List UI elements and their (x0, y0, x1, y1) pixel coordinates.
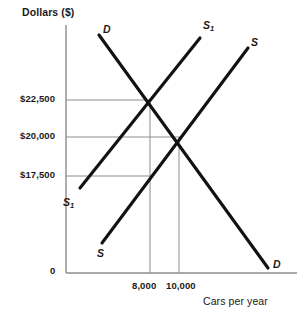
demand-curve (99, 35, 268, 268)
supply1-bottom-subscript: 1 (70, 201, 74, 210)
supply1-bottom-letter: S (63, 196, 70, 208)
x-axis-title: Cars per year (203, 295, 268, 307)
curves (80, 35, 268, 268)
supply1-curve-label-bottom: S1 (63, 196, 74, 208)
supply-demand-chart: Dollars ($) $22,500 $20,000 $17,500 0 8,… (0, 0, 307, 321)
origin-label: 0 (50, 265, 55, 276)
chart-canvas (0, 0, 307, 321)
y-tick-22500: $22,500 (20, 93, 55, 104)
supply1-curve-label-top: S1 (203, 19, 214, 31)
x-tick-10000: 10,000 (166, 280, 196, 291)
y-tick-17500: $17,500 (20, 169, 55, 180)
supply1-top-letter: S (203, 19, 210, 31)
demand-curve-label-bottom: D (273, 258, 281, 270)
y-tick-20000: $20,000 (20, 130, 55, 141)
y-axis-title: Dollars ($) (22, 6, 74, 18)
supply-curve (102, 48, 248, 243)
supply-curve-label-top: S (251, 36, 258, 48)
x-tick-8000: 8,000 (132, 280, 156, 291)
supply1-top-subscript: 1 (210, 24, 214, 33)
supply-curve-label-bottom: S (97, 247, 104, 259)
supply1-curve (80, 38, 200, 188)
demand-curve-label-top: D (103, 23, 111, 35)
